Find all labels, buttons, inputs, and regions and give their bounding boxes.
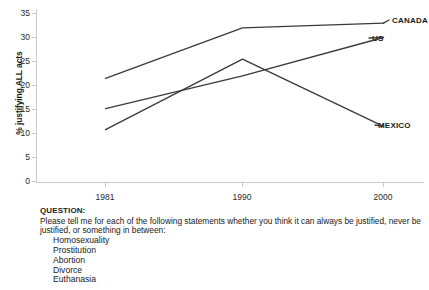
list-item: Homosexuality: [53, 236, 425, 246]
question-block: QUESTION: Please tell me for each of the…: [40, 206, 425, 285]
series-line-canada: [106, 23, 384, 78]
list-item: Prostitution: [53, 246, 425, 256]
question-heading: QUESTION:: [40, 206, 425, 216]
line-chart: % justifying ALL acts 35 30 25 20 15 10 …: [0, 0, 429, 205]
series-line-mexico: [106, 59, 384, 130]
y-axis-ticks: [32, 14, 37, 182]
question-text: Please tell me for each of the following…: [40, 217, 425, 237]
statement-list: Homosexuality Prostitution Abortion Divo…: [40, 236, 425, 285]
list-item: Divorce: [53, 266, 425, 276]
series-line-us: [106, 38, 384, 109]
plot-svg: [0, 0, 429, 205]
list-item: Abortion: [53, 256, 425, 266]
x-axis-ticks: [106, 183, 384, 188]
list-item: Euthanasia: [53, 275, 425, 285]
series-leader-us: [369, 38, 384, 39]
series-leader-canada: [384, 20, 390, 23]
